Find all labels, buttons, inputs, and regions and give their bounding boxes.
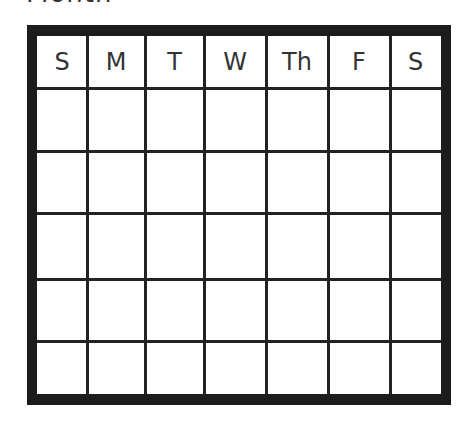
calendar-inner: S M T W Th F S <box>37 36 441 394</box>
day-header-friday: F <box>328 36 390 88</box>
day-header-tuesday: T <box>145 36 204 88</box>
day-header-monday: M <box>87 36 145 88</box>
calendar-grid: S M T W Th F S <box>27 25 451 405</box>
day-header-saturday: S <box>390 36 441 88</box>
month-title: Month <box>26 0 113 8</box>
row-divider <box>37 150 441 153</box>
row-divider <box>37 340 441 343</box>
row-divider <box>37 212 441 215</box>
header-divider <box>37 87 441 90</box>
day-header-thursday: Th <box>266 36 328 88</box>
day-header-wednesday: W <box>204 36 266 88</box>
row-divider <box>37 278 441 281</box>
day-header-sunday: S <box>37 36 87 88</box>
